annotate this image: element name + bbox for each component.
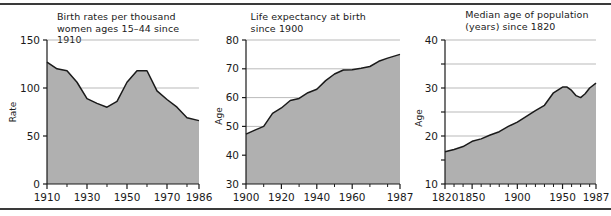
svg-text:50: 50 <box>225 120 238 132</box>
svg-text:1910: 1910 <box>34 191 61 203</box>
svg-text:1950: 1950 <box>549 191 576 203</box>
svg-text:1987: 1987 <box>583 191 610 203</box>
svg-text:40: 40 <box>225 149 238 161</box>
median-age-plot: 1020304018201850190019501987Age <box>407 6 611 206</box>
top-divider-rule <box>0 3 611 5</box>
svg-text:80: 80 <box>225 34 238 46</box>
svg-text:1900: 1900 <box>504 191 531 203</box>
svg-text:30: 30 <box>225 178 238 190</box>
svg-text:20: 20 <box>425 130 438 142</box>
svg-text:50: 50 <box>27 130 40 142</box>
svg-text:1850: 1850 <box>459 191 486 203</box>
chart-panels: Birth rates per thousand women ages 15–4… <box>0 6 611 206</box>
chart-panel-life-expectancy: Life expectancy at birth since 1900 3040… <box>204 6 408 206</box>
svg-text:1940: 1940 <box>303 191 330 203</box>
svg-text:1960: 1960 <box>338 191 365 203</box>
bottom-divider-rule <box>0 208 611 210</box>
y-axis-label: Age <box>214 107 224 125</box>
svg-text:1970: 1970 <box>154 191 181 203</box>
svg-text:1920: 1920 <box>268 191 295 203</box>
svg-text:60: 60 <box>225 91 238 103</box>
svg-text:10: 10 <box>425 178 438 190</box>
life-expectancy-plot: 30405060708019001920194019601987Age <box>204 6 408 206</box>
svg-text:1820: 1820 <box>432 191 459 203</box>
svg-text:30: 30 <box>425 82 438 94</box>
svg-text:1950: 1950 <box>114 191 141 203</box>
svg-text:0: 0 <box>33 178 40 190</box>
y-axis-label: Age <box>414 109 424 127</box>
svg-text:1900: 1900 <box>232 191 259 203</box>
birth-rates-plot: 05010015019101930195019701986Rate <box>0 6 204 206</box>
y-axis-label: Rate <box>8 101 18 122</box>
figure-root: Birth rates per thousand women ages 15–4… <box>0 0 611 216</box>
svg-text:40: 40 <box>425 34 438 46</box>
chart-panel-median-age: Median age of population (years) since 1… <box>407 6 611 206</box>
svg-text:100: 100 <box>20 82 40 94</box>
svg-text:70: 70 <box>225 62 238 74</box>
svg-text:150: 150 <box>20 34 40 46</box>
chart-panel-birth-rates: Birth rates per thousand women ages 15–4… <box>0 6 204 206</box>
svg-text:1930: 1930 <box>74 191 101 203</box>
